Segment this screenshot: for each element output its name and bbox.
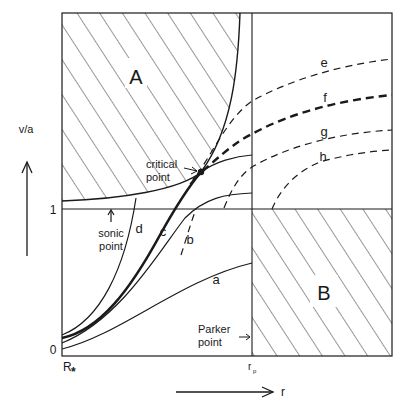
region-b-label: B: [317, 282, 330, 304]
svg-text:r: r: [248, 361, 252, 372]
curve-label-f: f: [323, 90, 327, 105]
sonic-point-arrow: [108, 210, 114, 222]
curve-label-d: d: [135, 221, 142, 236]
wind-solution-diagram: A B a b c d e f g h critical point sonic: [0, 0, 414, 415]
curve-label-g: g: [320, 124, 327, 139]
y-tick-1: 1: [50, 203, 57, 217]
curve-label-c: c: [160, 224, 167, 239]
x-tick-rp: r p: [248, 361, 257, 374]
svg-text:p: p: [253, 368, 257, 374]
x-tick-r-star: R *: [63, 360, 76, 379]
curve-label-b: b: [186, 232, 193, 247]
sonic-point-label-1: sonic: [98, 227, 124, 239]
curve-d: [62, 198, 136, 335]
curve-a: [62, 263, 252, 349]
svg-text:*: *: [71, 365, 76, 379]
y-axis-arrow: [22, 162, 32, 256]
x-axis-label: r: [281, 385, 285, 399]
region-a-label: A: [129, 66, 143, 88]
parker-point-label-2: point: [198, 336, 222, 348]
y-tick-0: 0: [50, 343, 57, 357]
parker-point-label-1: Parker: [198, 323, 231, 335]
critical-point-label-2: point: [146, 171, 170, 183]
critical-point-marker: [198, 169, 204, 175]
curve-h: [272, 150, 392, 209]
region-b: B: [252, 209, 392, 356]
parker-point-arrow: [239, 334, 250, 340]
curve-g: [224, 130, 392, 208]
critical-point-label-1: critical: [146, 158, 177, 170]
curve-label-e: e: [320, 55, 327, 70]
curve-b: [62, 193, 252, 343]
y-axis-label: v/a: [19, 123, 35, 135]
curve-label-a: a: [212, 272, 220, 287]
x-axis-arrow: [176, 387, 273, 397]
curve-label-h: h: [319, 149, 326, 164]
sonic-point-label-2: point: [99, 240, 123, 252]
